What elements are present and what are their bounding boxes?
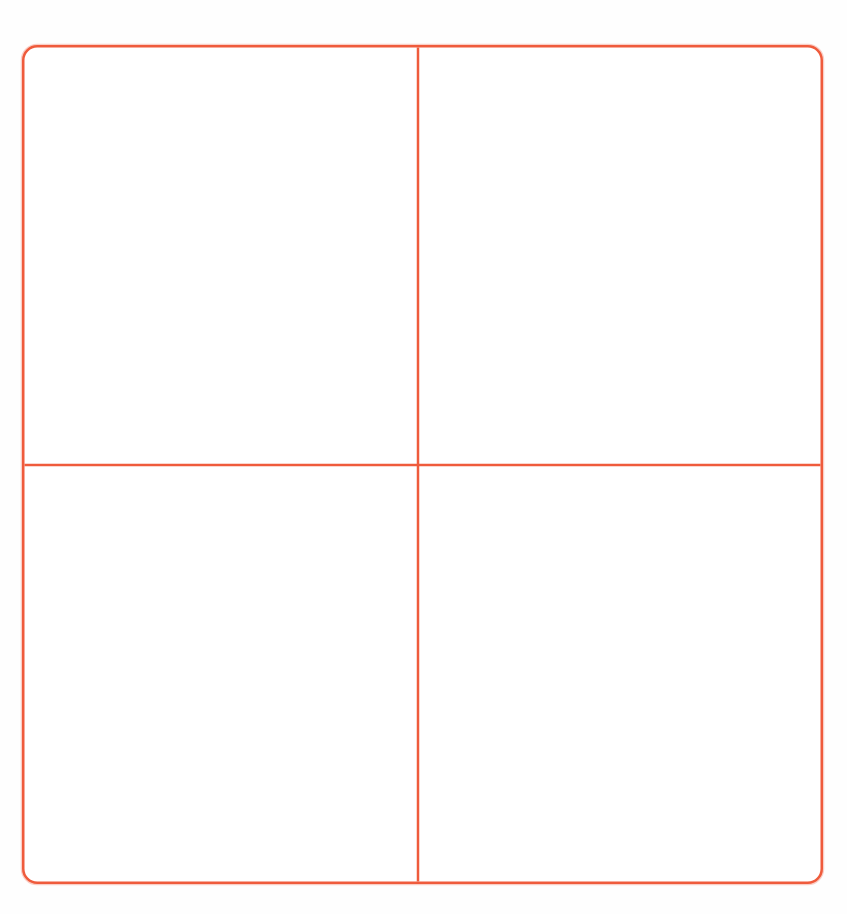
- quadrant-cell-top-right[interactable]: [421, 48, 821, 464]
- quadrant-cell-bottom-left[interactable]: [25, 468, 417, 882]
- quadrant-text-top-left: [25, 48, 417, 464]
- quadrant-text-bottom-right: [421, 468, 821, 882]
- quadrant-grid: [22, 45, 823, 884]
- quadrant-cell-bottom-right[interactable]: [421, 468, 821, 882]
- quadrant-text-top-right: [421, 48, 821, 464]
- quadrant-cell-top-left[interactable]: [25, 48, 417, 464]
- quadrant-text-bottom-left: [25, 468, 417, 882]
- scan-page: [0, 0, 847, 914]
